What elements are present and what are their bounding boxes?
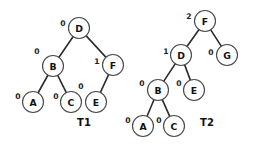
node-key-label: D — [75, 23, 83, 34]
node-key-label: G — [223, 50, 231, 61]
tree-node-t1-E[interactable]: E — [86, 92, 107, 113]
tree-node-t2-D[interactable]: D — [171, 45, 192, 66]
node-key-label: B — [154, 85, 161, 96]
node-key-label: A — [139, 121, 147, 132]
diagram-background — [0, 0, 260, 150]
node-balance-factor-f: 2 — [186, 12, 191, 21]
node-balance-factor-f: 1 — [94, 57, 99, 66]
tree-node-t1-C[interactable]: C — [61, 92, 82, 113]
node-balance-factor-c: 0 — [53, 92, 58, 101]
node-key-label: C — [68, 97, 75, 108]
node-balance-factor-c: 0 — [156, 116, 161, 125]
tree-node-t2-A[interactable]: A — [133, 116, 154, 137]
node-balance-factor-a: 0 — [15, 92, 20, 101]
node-balance-factor-d: 1 — [163, 47, 168, 56]
node-key-label: A — [29, 97, 37, 108]
node-balance-factor-e: 0 — [176, 79, 181, 88]
node-key-label: B — [49, 61, 56, 72]
tree-node-t2-G[interactable]: G — [217, 45, 238, 66]
tree-diagram-canvas: DBFACEFDGBEAC 0010002100000 T1 T2 — [0, 0, 260, 150]
tree-caption-t2: T2 — [200, 117, 214, 128]
node-key-label: E — [93, 97, 99, 108]
node-key-label: F — [202, 16, 208, 27]
tree-node-t1-B[interactable]: B — [43, 56, 64, 77]
tree-node-t1-A[interactable]: A — [23, 92, 44, 113]
tree-caption-t1: T1 — [77, 117, 91, 128]
tree-node-t2-F[interactable]: F — [195, 11, 216, 32]
node-balance-factor-b: 0 — [34, 47, 39, 56]
node-balance-factor-a: 0 — [125, 116, 130, 125]
tree-node-t1-D[interactable]: D — [69, 18, 90, 39]
node-balance-factor-e: 0 — [78, 82, 83, 91]
node-key-label: E — [191, 85, 197, 96]
tree-node-t2-E[interactable]: E — [184, 80, 205, 101]
node-key-label: C — [171, 121, 178, 132]
node-balance-factor-d: 0 — [60, 19, 65, 28]
node-balance-factor-b: 0 — [139, 79, 144, 88]
tree-node-t2-B[interactable]: B — [148, 80, 169, 101]
node-key-label: D — [177, 50, 185, 61]
node-balance-factor-g: 0 — [208, 48, 213, 57]
node-key-label: F — [110, 60, 116, 71]
tree-node-t2-C[interactable]: C — [164, 116, 185, 137]
tree-node-t1-F[interactable]: F — [103, 55, 124, 76]
